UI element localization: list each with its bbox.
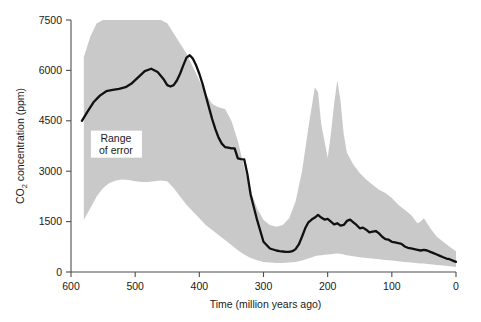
y-tick-label: 7500 (39, 14, 63, 26)
x-tick-label: 400 (191, 280, 209, 292)
y-axis-title-suffix: concentration (ppm) (14, 88, 26, 184)
svg-text:CO2 concentration (ppm): CO2 concentration (ppm) (14, 88, 29, 204)
y-axis-ticks: 015003000450060007500 (39, 14, 71, 278)
x-tick-label: 200 (319, 280, 337, 292)
y-tick-label: 3000 (39, 165, 63, 177)
x-axis-title: Time (million years ago) (210, 298, 322, 310)
x-tick-label: 500 (126, 280, 144, 292)
x-tick-label: 100 (383, 280, 401, 292)
co2-concentration-chart: 015003000450060007500 600500400300200100… (0, 0, 481, 322)
y-tick-label: 0 (56, 266, 62, 278)
y-axis-title-prefix: CO (14, 188, 26, 204)
annotation-line-2: of error (99, 144, 133, 156)
x-tick-label: 0 (453, 280, 459, 292)
annotation-line-1: Range (100, 132, 131, 144)
x-tick-label: 600 (62, 280, 80, 292)
x-tick-label: 300 (255, 280, 273, 292)
y-tick-label: 1500 (39, 215, 63, 227)
range-of-error-annotation: Rangeof error (91, 131, 142, 158)
chart-figure: 015003000450060007500 600500400300200100… (0, 0, 481, 322)
y-tick-label: 4500 (39, 114, 63, 126)
y-tick-label: 6000 (39, 64, 63, 76)
y-axis-title: CO2 concentration (ppm) (14, 88, 29, 204)
x-axis-ticks: 6005004003002001000 (62, 272, 459, 292)
